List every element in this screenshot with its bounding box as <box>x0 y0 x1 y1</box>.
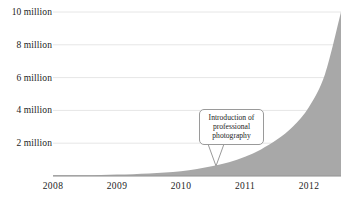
x-tick-label-2008: 2008 <box>23 181 83 192</box>
x-tick-label-2009: 2009 <box>87 181 147 192</box>
x-tick-label-2012: 2012 <box>279 181 339 192</box>
x-tick-label-2010: 2010 <box>151 181 211 192</box>
annotation-line-1: Introduction of <box>203 113 260 122</box>
area-series-fill <box>53 12 341 176</box>
y-tick-label-4-million: 4 million <box>0 105 52 115</box>
y-tick-label-10-million: 10 million <box>0 7 52 17</box>
chart-container: 10 million 8 million 6 million 4 million… <box>0 0 347 200</box>
y-tick-label-8-million: 8 million <box>0 40 52 50</box>
callout-pointer-tail <box>208 144 224 166</box>
y-tick-label-2-million: 2 million <box>0 138 52 148</box>
x-tick-label-2011: 2011 <box>215 181 275 192</box>
annotation-line-2: professional <box>203 122 260 131</box>
annotation-line-3: photography <box>203 131 260 140</box>
annotation-callout: Introduction of professional photography <box>199 109 264 145</box>
y-tick-label-6-million: 6 million <box>0 73 52 83</box>
chart-plot-svg <box>0 0 347 200</box>
